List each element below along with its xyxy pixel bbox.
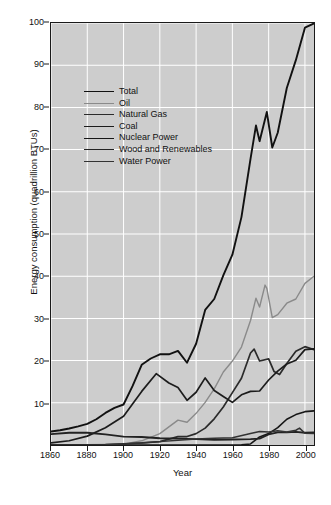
legend-item[interactable]: Wood and Renewables — [84, 144, 212, 156]
legend-item-label: Wood and Renewables — [119, 144, 212, 156]
legend-item[interactable]: Nuclear Power — [84, 132, 212, 144]
y-tick-mark — [44, 403, 49, 404]
x-tick-label: 1960 — [223, 450, 243, 460]
legend-swatch-line-icon — [84, 91, 114, 92]
legend-item-label: Total — [119, 86, 138, 98]
legend-swatch-line-icon — [84, 138, 114, 139]
x-axis-tick-labels: 18601880190019201940196019802000 — [50, 450, 315, 464]
legend-item-label: Water Power — [119, 156, 171, 168]
legend-item[interactable]: Coal — [84, 121, 212, 133]
y-tick-mark — [44, 191, 49, 192]
legend-item-label: Nuclear Power — [119, 132, 178, 144]
legend-swatch-line-icon — [84, 103, 114, 104]
x-tick-label: 1880 — [77, 450, 97, 460]
legend-item[interactable]: Oil — [84, 98, 212, 110]
series-line — [51, 23, 314, 431]
x-tick-label: 1860 — [40, 450, 60, 460]
legend-item[interactable]: Natural Gas — [84, 109, 212, 121]
energy-consumption-chart: 102030405060708090100 186018801900192019… — [0, 0, 331, 505]
y-tick-mark — [44, 64, 49, 65]
legend-swatch-line-icon — [84, 114, 114, 115]
y-axis-title: Energy consumption (quadrillion BTUs) — [28, 117, 39, 307]
x-tick-label: 1900 — [113, 450, 133, 460]
x-tick-label: 1980 — [259, 450, 279, 460]
legend-item-label: Natural Gas — [119, 109, 167, 121]
legend-swatch-line-icon — [84, 161, 114, 162]
y-tick-mark — [44, 234, 49, 235]
legend-swatch-line-icon — [84, 126, 114, 127]
legend-swatch-line-icon — [84, 149, 114, 150]
legend-item-label: Coal — [119, 121, 138, 133]
legend-item-label: Oil — [119, 98, 130, 110]
y-tick-mark — [44, 318, 49, 319]
legend-item[interactable]: Total — [84, 86, 212, 98]
series-line — [51, 276, 314, 445]
y-tick-mark — [44, 22, 49, 23]
y-tick-mark — [44, 149, 49, 150]
series-line — [51, 349, 314, 443]
x-axis-title: Year — [50, 467, 315, 478]
y-tick-mark — [44, 276, 49, 277]
y-axis-tick-marks — [0, 22, 50, 446]
x-tick-label: 1920 — [150, 450, 170, 460]
x-tick-label: 2000 — [296, 450, 316, 460]
y-tick-mark — [44, 361, 49, 362]
chart-legend: TotalOilNatural GasCoalNuclear PowerWood… — [84, 86, 212, 167]
legend-item[interactable]: Water Power — [84, 156, 212, 168]
x-tick-label: 1940 — [186, 450, 206, 460]
y-tick-mark — [44, 106, 49, 107]
